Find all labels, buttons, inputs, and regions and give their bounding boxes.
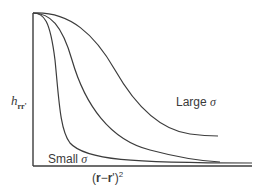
x-axis-label: (r−r')2: [92, 170, 123, 185]
y-label-subscript: rr': [18, 102, 27, 111]
x-minus: −: [101, 171, 108, 185]
small-text: Small: [48, 152, 81, 166]
chart-plot: [0, 0, 266, 192]
sigma-symbol: σ: [210, 95, 216, 109]
annotation-large-sigma: Large σ: [176, 95, 216, 110]
sigma-symbol: σ: [81, 152, 87, 166]
large-text: Large: [176, 95, 210, 109]
curve-small-sigma: [33, 13, 252, 163]
x-superscript: 2: [119, 170, 123, 179]
y-axis-label: hrr': [11, 93, 27, 111]
annotation-small-sigma: Small σ: [48, 152, 87, 167]
